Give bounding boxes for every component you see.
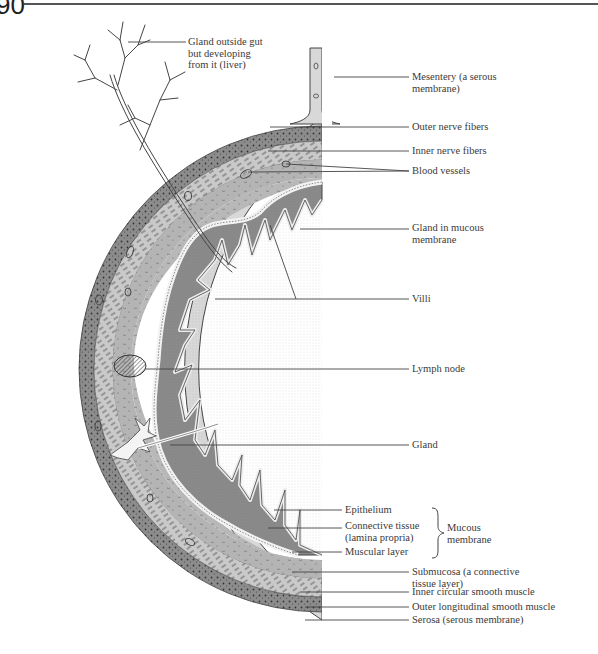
label-mucous-membrane: Mucous membrane bbox=[447, 522, 491, 545]
label-mesentery: Mesentery (a serous membrane) bbox=[412, 71, 497, 94]
label-gland: Gland bbox=[412, 439, 438, 451]
label-villi: Villi bbox=[412, 293, 431, 305]
label-liver-gland: Gland outside gut but developing from it… bbox=[188, 36, 263, 71]
gut-wall-diagram bbox=[0, 0, 598, 654]
label-serosa: Serosa (serous membrane) bbox=[412, 614, 523, 626]
label-epithelium: Epithelium bbox=[345, 504, 392, 516]
label-muscular-layer: Muscular layer bbox=[345, 546, 408, 558]
lymph-node bbox=[114, 355, 146, 377]
label-outer-longitudinal-muscle: Outer longitudinal smooth muscle bbox=[412, 601, 555, 613]
mucous-membrane-brace bbox=[432, 508, 444, 558]
mesentery bbox=[290, 48, 340, 124]
label-blood-vessels: Blood vessels bbox=[412, 165, 470, 177]
label-gland-in-mucous-membrane: Gland in mucous membrane bbox=[412, 222, 484, 245]
label-inner-nerve-fibers: Inner nerve fibers bbox=[412, 145, 487, 157]
label-lymph-node: Lymph node bbox=[412, 363, 465, 375]
label-connective-tissue: Connective tissue (lamina propria) bbox=[345, 520, 419, 543]
label-inner-circular-muscle: Inner circular smooth muscle bbox=[412, 586, 535, 598]
label-outer-nerve-fibers: Outer nerve fibers bbox=[412, 121, 488, 133]
